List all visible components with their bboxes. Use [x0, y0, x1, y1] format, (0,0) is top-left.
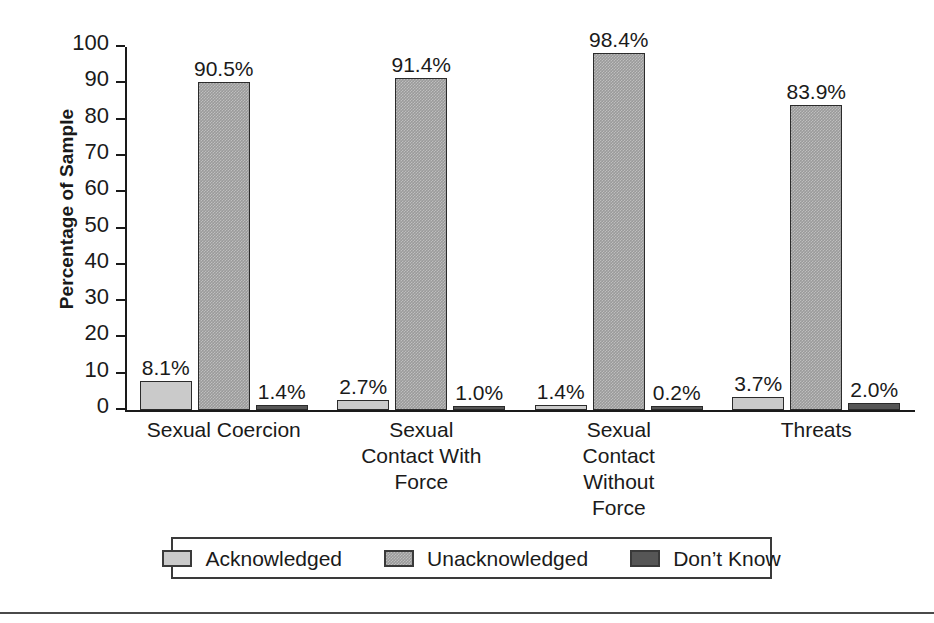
y-axis-tick-label: 90 [85, 68, 109, 90]
bar[interactable]: 1.4% [256, 405, 308, 410]
bar[interactable]: 91.4% [395, 78, 447, 410]
medium-gray-swatch [384, 550, 414, 567]
plot-area: 0102030405060708090100 8.1%90.5%1.4%2.7%… [125, 47, 915, 410]
y-axis-tick-label: 80 [85, 105, 109, 127]
y-axis-tick-label: 50 [85, 214, 109, 236]
bar-value-label: 1.4% [537, 380, 585, 403]
bar[interactable]: 83.9% [790, 105, 842, 410]
y-axis-tick: 30 [116, 299, 125, 301]
bar-value-label: 90.5% [194, 57, 254, 80]
y-axis-tick: 60 [116, 190, 125, 192]
x-axis-category-label: Sexual Coercion [125, 417, 323, 443]
bar-value-label: 2.7% [339, 375, 387, 398]
bar-value-label: 0.2% [653, 381, 701, 404]
y-axis-tick-label: 0 [97, 395, 109, 417]
bar-value-label: 1.0% [455, 381, 503, 404]
y-axis-tick-label: 10 [85, 359, 109, 381]
bar[interactable]: 1.4% [535, 405, 587, 410]
y-axis-tick: 0 [116, 408, 125, 410]
y-axis-line [125, 47, 127, 410]
bar-group: 8.1%90.5%1.4% [140, 47, 308, 410]
footer-divider [0, 612, 934, 614]
bar-value-label: 83.9% [786, 80, 846, 103]
category-label-line: Sexual [323, 417, 521, 443]
bar-group: 2.7%91.4%1.0% [337, 47, 505, 410]
category-label-line: Sexual Coercion [125, 417, 323, 443]
chart-legend: AcknowledgedUnacknowledgedDon’t Know [171, 537, 772, 579]
bar[interactable]: 90.5% [198, 82, 250, 411]
bar[interactable]: 0.2% [651, 406, 703, 410]
legend-item[interactable]: Unacknowledged [384, 547, 588, 570]
bar[interactable]: 8.1% [140, 381, 192, 410]
bar-value-label: 8.1% [142, 356, 190, 379]
bar-value-label: 3.7% [734, 372, 782, 395]
bar[interactable]: 3.7% [732, 397, 784, 410]
legend-item-label: Don’t Know [673, 547, 780, 570]
y-axis-tick: 20 [116, 335, 125, 337]
light-gray-swatch [162, 550, 192, 567]
y-axis-tick-label: 100 [72, 32, 109, 54]
legend-item-label: Acknowledged [205, 547, 342, 570]
category-label-line: Without [520, 469, 718, 495]
category-label-line: Contact [520, 443, 718, 469]
y-axis-tick-label: 60 [85, 177, 109, 199]
bar[interactable]: 2.7% [337, 400, 389, 410]
y-axis-tick: 50 [116, 227, 125, 229]
bar-value-label: 2.0% [850, 378, 898, 401]
x-axis-line [125, 410, 915, 412]
category-label-line: Force [323, 469, 521, 495]
category-label-line: Sexual [520, 417, 718, 443]
y-axis-title: Percentage of Sample [56, 79, 78, 339]
bar[interactable]: 1.0% [453, 406, 505, 410]
y-axis-tick-label: 70 [85, 141, 109, 163]
y-axis-tick: 80 [116, 118, 125, 120]
legend-item[interactable]: Acknowledged [162, 547, 342, 570]
bar-group: 1.4%98.4%0.2% [535, 47, 703, 410]
y-axis-tick: 10 [116, 372, 125, 374]
bar-chart-figure: Percentage of Sample 0102030405060708090… [0, 0, 934, 623]
y-axis-tick: 70 [116, 154, 125, 156]
bar[interactable]: 2.0% [848, 403, 900, 410]
legend-item-label: Unacknowledged [427, 547, 588, 570]
category-label-line: Force [520, 495, 718, 521]
category-label-line: Contact With [323, 443, 521, 469]
y-axis-tick: 100 [116, 45, 125, 47]
dark-gray-swatch [630, 550, 660, 567]
x-axis-category-label: SexualContact WithForce [323, 417, 521, 495]
y-axis-tick: 90 [116, 81, 125, 83]
bar-value-label: 1.4% [258, 380, 306, 403]
x-axis-category-label: SexualContactWithoutForce [520, 417, 718, 521]
x-axis-category-label: Threats [718, 417, 916, 443]
y-axis-tick-label: 20 [85, 322, 109, 344]
category-label-line: Threats [718, 417, 916, 443]
y-axis-tick: 40 [116, 263, 125, 265]
bar[interactable]: 98.4% [593, 53, 645, 410]
bar-group: 3.7%83.9%2.0% [732, 47, 900, 410]
bar-value-label: 98.4% [589, 28, 649, 51]
bar-value-label: 91.4% [391, 53, 451, 76]
legend-item[interactable]: Don’t Know [630, 547, 780, 570]
y-axis-tick-label: 30 [85, 286, 109, 308]
y-axis-tick-label: 40 [85, 250, 109, 272]
